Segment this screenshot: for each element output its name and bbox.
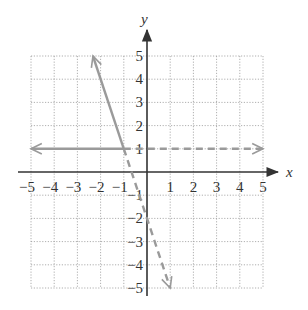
x-tick-label: −4: [42, 179, 58, 195]
y-axis-label: y: [139, 11, 148, 27]
y-tick-label: 4: [136, 71, 144, 87]
y-tick-label: 5: [136, 48, 144, 64]
x-tick-label: 5: [259, 179, 267, 195]
y-tick-label: −5: [127, 280, 143, 296]
y-tick-label: −2: [127, 210, 143, 226]
y-tick-label: 3: [136, 94, 144, 110]
x-tick-label: −2: [89, 179, 105, 195]
x-tick-label: 2: [190, 179, 198, 195]
y-tick-label: −4: [127, 257, 143, 273]
y-tick-label: −3: [127, 234, 143, 250]
x-tick-label: 3: [213, 179, 221, 195]
axes: x y: [18, 11, 293, 296]
y-tick-label: 2: [136, 118, 144, 134]
x-tick-label: 4: [236, 179, 244, 195]
graph-ray: [93, 56, 124, 149]
x-tick-label: 1: [166, 179, 174, 195]
x-axis-label: x: [285, 164, 293, 180]
x-tick-label: −5: [19, 179, 35, 195]
x-tick-label: −1: [112, 179, 128, 195]
x-tick-label: −3: [65, 179, 81, 195]
coordinate-plane: x y −5−4−3−2−11234554321−1−2−3−4−5: [0, 0, 308, 310]
